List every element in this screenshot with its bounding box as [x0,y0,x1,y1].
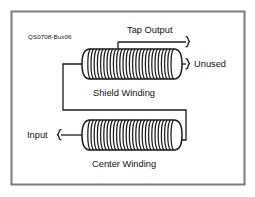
shield-winding-label: Shield Winding [93,88,155,98]
input-label: Input [27,130,48,140]
diagram-canvas: QS0708-Bux06 Tap Output [0,0,255,197]
unused-label: Unused [194,59,226,69]
center-winding-label: Center Winding [92,159,156,169]
tap-output-label: Tap Output [127,25,173,35]
part-id-label: QS0708-Bux06 [28,33,72,40]
